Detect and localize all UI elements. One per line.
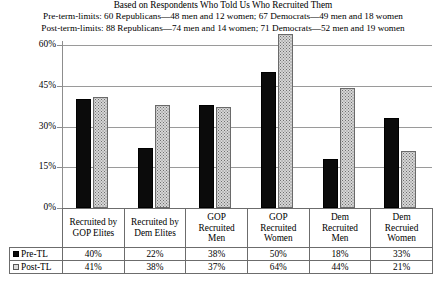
table-row: Post-TL41%38%37%64%44%21% — [10, 261, 433, 274]
table-col-header: GOPRecruitedMen — [186, 209, 248, 248]
legend-label: Pre-TL — [21, 249, 48, 259]
bar-pre-tl — [261, 72, 276, 208]
y-tick-label-30: 30% — [39, 122, 56, 131]
y-tick-label-15: 15% — [39, 162, 56, 171]
table-row: Pre-TL40%22%38%50%18%33% — [10, 248, 433, 261]
table-col-header: Recruited byDem Elites — [124, 209, 186, 248]
chart-subtitle-pre: Pre-term-limits: 60 Republicans—48 men a… — [0, 11, 446, 22]
y-tick-label-45: 45% — [39, 81, 56, 90]
chart-header: Based on Respondents Who Told Us Who Rec… — [0, 0, 446, 34]
table-cell-value: 22% — [124, 248, 186, 261]
table-cell-value: 41% — [63, 261, 125, 274]
table-cell-value: 38% — [124, 261, 186, 274]
table-col-header: Recruited byGOP Elites — [63, 209, 125, 248]
legend-item-pre[interactable]: Pre-TL — [10, 248, 63, 261]
table-cell-value: 37% — [186, 261, 248, 274]
table-cell-value: 50% — [247, 248, 309, 261]
bar-post-tl — [93, 97, 108, 208]
bar-group — [247, 45, 309, 208]
chart-root: Based on Respondents Who Told Us Who Rec… — [0, 0, 446, 290]
chart-title: Based on Respondents Who Told Us Who Rec… — [0, 0, 446, 11]
bar-pre-tl — [384, 118, 399, 208]
table-cell-value: 64% — [247, 261, 309, 274]
bar-group — [309, 45, 371, 208]
table-col-header: DemRecruiedWomen — [371, 209, 433, 248]
table-cell-value: 38% — [186, 248, 248, 261]
y-tick-label-60: 60% — [39, 40, 56, 49]
table-cell-value: 18% — [309, 248, 371, 261]
bar-post-tl — [278, 34, 293, 208]
bar-post-tl — [401, 151, 416, 208]
bar-pre-tl — [199, 105, 214, 208]
table-cell-value: 33% — [371, 248, 433, 261]
bar-group — [62, 45, 124, 208]
bar-post-tl — [216, 107, 231, 208]
stippled-square-icon — [13, 264, 19, 270]
table-col-header: DemRecruitedMen — [309, 209, 371, 248]
black-square-icon — [13, 251, 19, 257]
bar-post-tl — [155, 105, 170, 208]
bar-group — [124, 45, 186, 208]
bar-pre-tl — [323, 159, 338, 208]
legend-item-post[interactable]: Post-TL — [10, 261, 63, 274]
table-row-headers: Recruited byGOP ElitesRecruited byDem El… — [10, 209, 433, 248]
legend-label: Post-TL — [21, 262, 51, 272]
bar-pre-tl — [76, 99, 91, 208]
table-col-header: GOPRecruitedWomen — [247, 209, 309, 248]
chart-subtitle-post: Post-term-limits: 88 Republicans—74 men … — [0, 23, 446, 34]
bar-pre-tl — [138, 148, 153, 208]
table-cell-value: 21% — [371, 261, 433, 274]
table-cell-value: 40% — [63, 248, 125, 261]
data-table: Recruited byGOP ElitesRecruited byDem El… — [9, 208, 433, 274]
bar-group — [185, 45, 247, 208]
bar-post-tl — [340, 88, 355, 208]
table-cell-value: 44% — [309, 261, 371, 274]
y-axis-labels: 0%15%30%45%60% — [0, 45, 56, 208]
bar-groups — [62, 45, 432, 208]
table-corner-cell — [10, 209, 63, 248]
bar-group — [370, 45, 432, 208]
